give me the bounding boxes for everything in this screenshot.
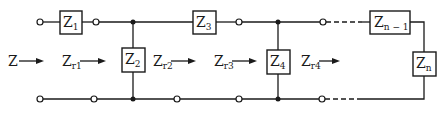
label-z-input: Z (8, 53, 44, 69)
ladder-network-diagram: Z1 Z2 Z3 Z4 Zn − 1 Zn Z Zr1 (0, 0, 447, 113)
label-zr4: Zr4 (301, 53, 340, 71)
svg-text:Zr1: Zr1 (62, 53, 82, 71)
terminal-bottom-1 (91, 96, 97, 102)
svg-text:Zr4: Zr4 (301, 53, 321, 71)
impedance-z3: Z3 (193, 11, 216, 34)
impedance-z2: Z2 (122, 48, 145, 72)
terminal-bottom-3 (236, 96, 242, 102)
terminal-top-3 (320, 19, 326, 25)
terminal-top-2 (236, 19, 242, 25)
junction-bottom-z2 (131, 97, 136, 102)
label-zr2: Zr2 (153, 53, 196, 71)
impedance-z1: Z1 (60, 11, 82, 34)
terminal-bottom-2 (174, 96, 180, 102)
terminal-bottom-4 (319, 96, 325, 102)
wire-zn1-to-zn (410, 22, 424, 52)
terminal-top-1 (93, 19, 99, 25)
junction-top-z2 (131, 20, 136, 25)
impedance-zn: Zn (413, 52, 436, 76)
junction-top-z4 (276, 20, 281, 25)
terminal-bottom-input (37, 96, 43, 102)
wire-bottom-to-zn (360, 76, 424, 99)
junction-bottom-z4 (276, 97, 281, 102)
svg-text:Zr2: Zr2 (153, 53, 173, 71)
label-zr1: Zr1 (62, 53, 106, 71)
svg-text:Zr3: Zr3 (214, 53, 234, 71)
impedance-z4: Z4 (267, 50, 290, 74)
label-zr3: Zr3 (214, 53, 257, 71)
terminal-top-input (37, 19, 43, 25)
impedance-zn-minus-1: Zn − 1 (370, 11, 410, 34)
svg-text:Z: Z (8, 53, 18, 69)
